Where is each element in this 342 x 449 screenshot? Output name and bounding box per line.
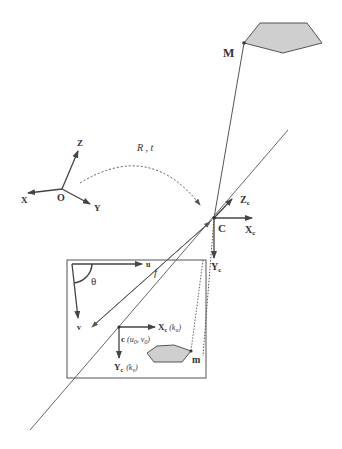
world-frame: Z X Y O (21, 138, 101, 213)
world-axis-y-label: Y (94, 203, 101, 213)
skew-angle-label: θ (91, 275, 96, 287)
principal-point-label: c(u0, v0) (121, 334, 150, 345)
transform-label: R , t (136, 142, 154, 153)
image-object-polygon (147, 345, 191, 362)
camera-model-diagram: M f Z X Y O R , t C Xc Zc Yc u v θ (0, 0, 342, 449)
projection-ray-M-to-C (214, 43, 244, 218)
xc-kul-label: Xc(ku) (158, 322, 181, 333)
image-point-m-label: m (192, 354, 201, 365)
world-object-polygon (244, 23, 322, 53)
u-axis-label: u (146, 260, 151, 269)
camera-axis-x-label: Xc (245, 224, 255, 237)
image-plane (67, 260, 206, 378)
focal-length-line-2 (95, 222, 210, 324)
world-point-M-label: M (223, 46, 234, 60)
image-axes: u v θ (72, 260, 151, 332)
camera-frame: C Xc Zc Yc (211, 194, 255, 274)
camera-axis-z-label: Zc (240, 194, 250, 207)
camera-axis-y-label: Yc (211, 261, 221, 274)
camera-center-label: C (218, 222, 226, 234)
yc-kv-label: Yc(kv) (114, 362, 138, 373)
transform-arrow (80, 166, 200, 205)
optical-axis-line (30, 130, 288, 430)
world-axis-z-label: Z (77, 138, 83, 148)
world-axis-x-label: X (21, 195, 28, 205)
v-axis-label: v (77, 323, 81, 332)
projection-ray-C-to-m (203, 218, 214, 356)
ray-to-m (191, 260, 203, 351)
world-origin-label: O (57, 192, 65, 203)
